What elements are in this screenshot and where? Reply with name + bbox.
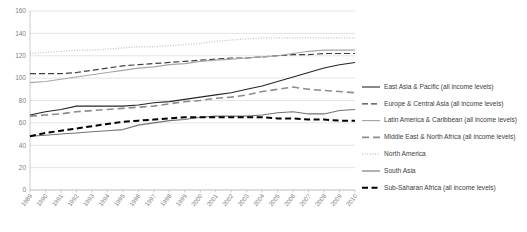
grid-lines xyxy=(30,11,355,190)
legend-label-6: Sub-Saharan Africa (all income levels) xyxy=(384,184,496,192)
x-tick-label-1992: 1992 xyxy=(66,192,80,208)
chart-canvas: 020406080100120140160 198919901991199219… xyxy=(0,0,527,232)
x-tick-label-1989: 1989 xyxy=(19,192,33,208)
legend-label-3: Middle East & North Africa (all income l… xyxy=(384,133,516,141)
x-tick-label-2008: 2008 xyxy=(313,192,327,208)
x-tick-label-1991: 1991 xyxy=(50,192,64,208)
y-tick-label-0: 0 xyxy=(22,186,26,193)
x-tick-label-2007: 2007 xyxy=(298,192,312,208)
x-tick-label-1993: 1993 xyxy=(81,192,95,208)
x-tick-label-2010: 2010 xyxy=(344,192,358,208)
x-tick-label-2005: 2005 xyxy=(267,192,281,208)
legend-label-5: South Asia xyxy=(384,167,416,174)
x-tick-label-1995: 1995 xyxy=(112,192,126,208)
x-tick-label-2006: 2006 xyxy=(282,192,296,208)
x-tick-label-1997: 1997 xyxy=(143,192,157,208)
x-tick-label-1990: 1990 xyxy=(35,192,49,208)
x-tick-label-1999: 1999 xyxy=(174,192,188,208)
y-tick-label-100: 100 xyxy=(15,74,26,81)
legend-label-0: East Asia & Pacific (all income levels) xyxy=(384,83,494,91)
y-tick-label-140: 140 xyxy=(15,30,26,37)
series-line-3 xyxy=(30,87,355,116)
y-tick-label-60: 60 xyxy=(19,119,27,126)
x-tick-label-2004: 2004 xyxy=(251,192,265,208)
y-axis: 020406080100120140160 xyxy=(15,7,30,193)
x-tick-label-2009: 2009 xyxy=(329,192,343,208)
y-tick-label-120: 120 xyxy=(15,52,26,59)
x-tick-label-1998: 1998 xyxy=(159,192,173,208)
x-tick-label-1994: 1994 xyxy=(97,192,111,208)
x-tick-label-2000: 2000 xyxy=(190,192,204,208)
y-tick-label-80: 80 xyxy=(19,97,27,104)
line-chart: 020406080100120140160 198919901991199219… xyxy=(0,0,527,232)
y-tick-label-40: 40 xyxy=(19,142,27,149)
legend-label-4: North America xyxy=(384,150,426,157)
legend-label-1: Europe & Central Asia (all income levels… xyxy=(384,100,503,108)
x-tick-label-2002: 2002 xyxy=(220,192,234,208)
y-tick-label-160: 160 xyxy=(15,7,26,14)
plot-series xyxy=(30,38,355,136)
x-tick-label-2001: 2001 xyxy=(205,192,219,208)
x-tick-label-2003: 2003 xyxy=(236,192,250,208)
series-line-1 xyxy=(30,54,355,74)
y-tick-label-20: 20 xyxy=(19,164,27,171)
series-line-6 xyxy=(30,117,355,136)
series-line-2 xyxy=(30,50,355,82)
x-tick-label-1996: 1996 xyxy=(128,192,142,208)
chart-legend: East Asia & Pacific (all income levels)E… xyxy=(362,83,517,192)
x-axis: 1989199019911992199319941995199619971998… xyxy=(19,190,358,207)
legend-label-2: Latin America & Caribbean (all income le… xyxy=(384,116,517,124)
